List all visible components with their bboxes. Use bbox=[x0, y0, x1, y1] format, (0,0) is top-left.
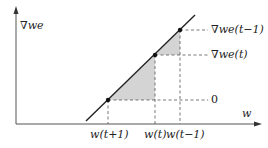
label-grad-t-minus-1: ∇we(t−1) bbox=[211, 24, 264, 35]
label-w-t: w(t) bbox=[144, 129, 166, 140]
x-axis-arrow-icon bbox=[254, 122, 262, 127]
dashed-guides bbox=[108, 30, 208, 124]
point-w-t-minus-1 bbox=[178, 28, 182, 32]
x-axis-label: w bbox=[242, 108, 251, 119]
label-zero: 0 bbox=[211, 94, 218, 105]
y-axis-arrow-icon bbox=[14, 6, 19, 14]
point-w-t bbox=[153, 53, 157, 57]
label-grad-t: ∇we(t) bbox=[211, 49, 248, 60]
label-w-t-plus-1: w(t+1) bbox=[90, 129, 129, 140]
label-w-t-minus-1: w(t−1) bbox=[166, 129, 205, 140]
point-w-t-plus-1 bbox=[106, 98, 110, 102]
y-axis-label: ∇we bbox=[20, 20, 44, 31]
